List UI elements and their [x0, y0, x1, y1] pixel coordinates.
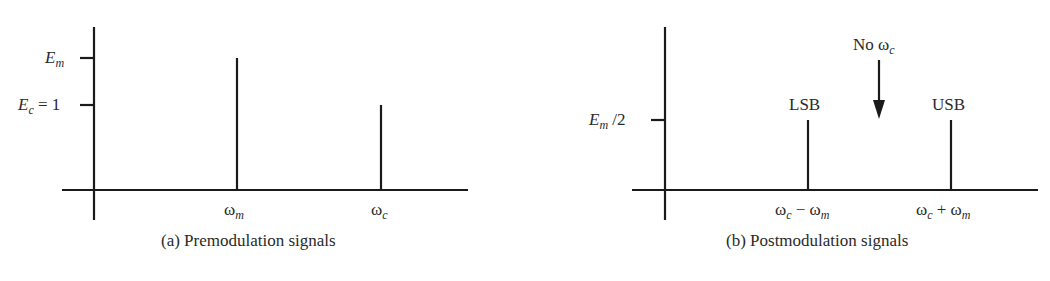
ytick-sub: m	[55, 56, 64, 70]
panel-b-label-lsb: LSB	[789, 96, 820, 113]
xlabel-sub2: m	[962, 208, 971, 222]
xlabel-mid: − ω	[792, 200, 821, 219]
panel-a-ytick-ec: Ec = 1	[18, 96, 60, 113]
xlabel-main: ω	[916, 200, 927, 219]
panel-b-label-usb: USB	[932, 96, 965, 113]
xlabel-sub: m	[235, 208, 244, 222]
panel-a-xlabel-wm: ωm	[224, 201, 244, 218]
ytick-main: E	[18, 95, 28, 114]
xlabel-main: ω	[371, 200, 382, 219]
xlabel-main: ω	[224, 200, 235, 219]
ytick-main: E	[589, 110, 599, 129]
xlabel-sub2: m	[821, 208, 830, 222]
panel-a-axes	[62, 27, 468, 220]
xlabel-main: ω	[775, 200, 786, 219]
panel-a-caption: (a) Premodulation signals	[161, 232, 336, 249]
ytick-rest: /2	[608, 110, 625, 129]
panel-b-xlabel-usb: ωc + ωm	[916, 201, 970, 218]
panel-b-caption: (b) Postmodulation signals	[726, 232, 908, 249]
ytick-rest: = 1	[34, 95, 61, 114]
panel-a-xlabel-wc: ωc	[371, 201, 388, 218]
panel-b-axes	[632, 27, 1038, 220]
panel-b-ytick-em2: Em /2	[589, 111, 626, 128]
ytick-sub: m	[599, 118, 608, 132]
annotation-main: No ω	[853, 35, 889, 54]
annotation-sub: c	[889, 43, 894, 57]
panel-b-annotation-no-wc: No ωc	[853, 36, 895, 53]
xlabel-sub: c	[382, 208, 387, 222]
panel-a-ytick-em: Em	[45, 49, 64, 66]
xlabel-mid: + ω	[933, 200, 962, 219]
ytick-main: E	[45, 48, 55, 67]
arrow-down-icon	[873, 100, 885, 119]
panel-b-xlabel-lsb: ωc − ωm	[775, 201, 829, 218]
